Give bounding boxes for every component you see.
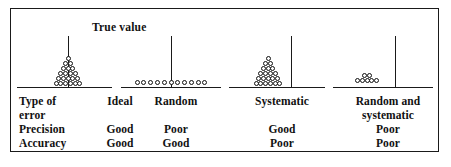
cell-error-type-random: Random bbox=[136, 95, 216, 107]
row-label-accuracy: Accuracy bbox=[19, 137, 66, 149]
panel-random-and-systematic bbox=[329, 9, 437, 95]
panel-ideal bbox=[11, 9, 115, 95]
true-value-line-random-and-systematic bbox=[395, 36, 396, 87]
cell-precision-random: Poor bbox=[136, 123, 216, 135]
cell-error-type-random-and-systematic-line1: Random and bbox=[341, 95, 435, 107]
dot-pile-systematic bbox=[244, 56, 292, 86]
dot bbox=[169, 80, 174, 85]
dot-row bbox=[244, 81, 292, 86]
dot bbox=[148, 80, 153, 85]
row-label-type-of-error-line2: error bbox=[19, 109, 45, 121]
figure-frame: True value bbox=[10, 8, 439, 152]
error-table: Type of error Precision Accuracy Ideal G… bbox=[11, 95, 438, 153]
cell-accuracy-random: Good bbox=[136, 137, 216, 149]
dot-row bbox=[127, 80, 215, 85]
baseline-random bbox=[121, 87, 221, 88]
dot bbox=[141, 80, 146, 85]
cell-error-type-random-and-systematic-line2: systematic bbox=[341, 109, 435, 121]
dot bbox=[202, 80, 207, 85]
dot-pile-random-and-systematic bbox=[347, 73, 387, 83]
panel-systematic bbox=[225, 9, 329, 95]
baseline-systematic bbox=[229, 87, 325, 88]
row-label-precision: Precision bbox=[19, 123, 65, 135]
dot bbox=[182, 80, 187, 85]
dot bbox=[175, 80, 180, 85]
dot bbox=[135, 80, 140, 85]
dot bbox=[277, 81, 282, 86]
cell-precision-systematic: Good bbox=[239, 123, 325, 135]
dot bbox=[189, 80, 194, 85]
panel-random bbox=[115, 9, 225, 95]
diagram-stage: True value bbox=[11, 9, 438, 151]
dot bbox=[162, 80, 167, 85]
baseline-ideal bbox=[17, 87, 112, 88]
dot bbox=[155, 80, 160, 85]
baseline-random-and-systematic bbox=[333, 87, 433, 88]
cell-accuracy-systematic: Poor bbox=[239, 137, 325, 149]
dot-row bbox=[347, 78, 387, 83]
dot bbox=[374, 78, 379, 83]
cell-precision-random-and-systematic: Poor bbox=[341, 123, 435, 135]
dot bbox=[196, 80, 201, 85]
row-label-type-of-error-line1: Type of bbox=[19, 95, 56, 107]
dot bbox=[77, 81, 82, 86]
cell-accuracy-random-and-systematic: Poor bbox=[341, 137, 435, 149]
dot-pile-random bbox=[127, 80, 215, 85]
cell-error-type-systematic: Systematic bbox=[239, 95, 325, 107]
dot-row bbox=[44, 81, 92, 86]
dot-pile-ideal bbox=[44, 56, 92, 86]
